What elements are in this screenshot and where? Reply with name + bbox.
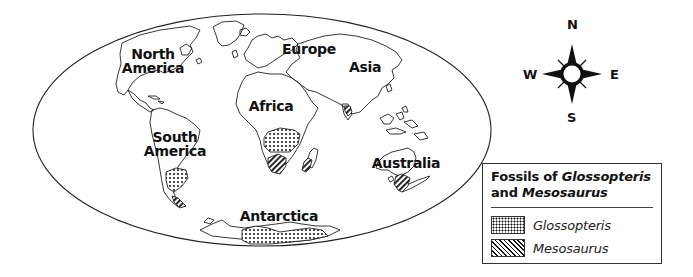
label-south-america-line2: America bbox=[140, 144, 210, 158]
label-asia-text: Asia bbox=[340, 60, 390, 74]
legend-label-mesosaurus: Mesosaurus bbox=[533, 241, 608, 256]
label-north-america: North America bbox=[118, 47, 188, 75]
legend-divider bbox=[491, 207, 653, 208]
label-australia: Australia bbox=[364, 156, 448, 170]
dot-pattern-swatch bbox=[491, 216, 525, 234]
fossil-region-mesosaurus-india bbox=[344, 106, 352, 116]
label-south-america-line1: South bbox=[140, 130, 210, 144]
label-south-america: South America bbox=[140, 130, 210, 158]
fossil-region-glossopteris-africa bbox=[264, 128, 300, 152]
fossil-region-glossopteris-south-america bbox=[166, 168, 188, 192]
compass-west-label: W bbox=[523, 68, 537, 81]
label-africa-text: Africa bbox=[236, 99, 306, 113]
label-europe-text: Europe bbox=[274, 42, 344, 56]
label-north-america-line2: America bbox=[118, 61, 188, 75]
legend-title-mid: and bbox=[491, 185, 522, 200]
label-australia-text: Australia bbox=[364, 156, 448, 170]
label-asia: Asia bbox=[340, 60, 390, 74]
legend-box: Fossils of Glossopteris and Mesosaurus G… bbox=[482, 163, 662, 264]
legend-title-glossopteris: Glossopteris bbox=[562, 169, 651, 184]
legend-label-glossopteris: Glossopteris bbox=[533, 218, 611, 233]
label-north-america-line1: North bbox=[118, 47, 188, 61]
hatch-pattern-swatch bbox=[491, 239, 525, 257]
fossil-region-mesosaurus-madagascar bbox=[302, 158, 312, 172]
label-europe: Europe bbox=[274, 42, 344, 56]
compass-north-label: N bbox=[567, 18, 578, 31]
label-antarctica: Antarctica bbox=[234, 209, 324, 223]
label-africa: Africa bbox=[236, 99, 306, 113]
fossil-region-mesosaurus-south-america bbox=[172, 196, 186, 208]
fossil-region-glossopteris-antarctica bbox=[242, 226, 328, 244]
legend-title: Fossils of Glossopteris and Mesosaurus bbox=[491, 169, 661, 201]
legend-title-mesosaurus: Mesosaurus bbox=[522, 185, 608, 200]
label-antarctica-text: Antarctica bbox=[234, 209, 324, 223]
compass-rose bbox=[542, 44, 602, 104]
compass-south-label: S bbox=[567, 111, 576, 124]
fossil-region-mesosaurus-africa bbox=[268, 154, 286, 174]
legend-title-prefix: Fossils of bbox=[491, 169, 562, 184]
legend-item-glossopteris: Glossopteris bbox=[491, 215, 611, 235]
compass-east-label: E bbox=[610, 68, 619, 81]
legend-item-mesosaurus: Mesosaurus bbox=[491, 238, 608, 258]
